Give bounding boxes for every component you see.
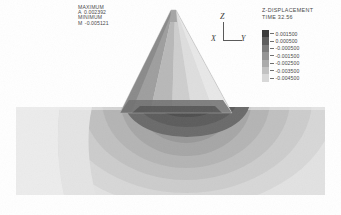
z-axis-line	[223, 22, 224, 41]
legend-colorbar: 0.0015000.000500-0.000500-0.001500-0.002…	[262, 30, 341, 82]
legend-tick	[270, 48, 274, 49]
minimum-value-row: M-0.005121	[78, 21, 140, 26]
minimum-value: -0.005121	[85, 20, 109, 26]
legend-value-label: -0.004500	[276, 75, 300, 81]
legend-row: -0.003500	[262, 67, 341, 74]
legend-value-label: 0.000500	[276, 38, 298, 44]
legend-swatch	[262, 74, 269, 81]
legend-tick	[270, 55, 274, 56]
legend-tick	[270, 41, 274, 42]
legend-row: 0.001500	[262, 30, 341, 37]
legend-title: Z-DISPLACEMENT	[262, 7, 341, 13]
legend-subtitle: TIME 32.56	[262, 14, 341, 20]
legend-row: -0.002500	[262, 60, 341, 67]
legend-value-label: 0.001500	[276, 31, 298, 37]
legend-value-label: -0.002500	[276, 60, 300, 66]
legend-row: -0.001500	[262, 52, 341, 59]
legend-swatch	[262, 30, 269, 37]
axis-triad: Z Y X	[205, 12, 249, 54]
legend-swatch	[262, 67, 269, 74]
legend-swatch	[262, 60, 269, 67]
x-axis-label: X	[211, 34, 216, 43]
legend-tick	[270, 33, 274, 34]
legend-tick	[270, 78, 274, 79]
z-axis-label: Z	[220, 12, 224, 21]
legend-row: -0.004500	[262, 74, 341, 81]
minimum-node-tag: M	[78, 20, 82, 26]
legend-swatch	[262, 37, 269, 44]
legend-value-label: -0.003500	[276, 68, 300, 74]
legend-swatch	[262, 52, 269, 59]
legend-row: 0.000500	[262, 37, 341, 44]
legend-tick	[270, 70, 274, 71]
legend-swatch	[262, 45, 269, 52]
legend-tick	[270, 63, 274, 64]
y-axis-label: Y	[241, 34, 245, 43]
fea-contour-plot-viewport: MAXIMUM A0.002392 MINIMUM M-0.005121 Z Y…	[0, 0, 341, 215]
extrema-annotation: MAXIMUM A0.002392 MINIMUM M-0.005121	[78, 5, 140, 26]
y-axis-line	[223, 40, 242, 41]
legend-value-label: -0.000500	[276, 45, 300, 51]
legend-row: -0.000500	[262, 45, 341, 52]
legend-panel: Z-DISPLACEMENT TIME 32.56 0.0015000.0005…	[262, 7, 341, 20]
legend-value-label: -0.001500	[276, 53, 300, 59]
